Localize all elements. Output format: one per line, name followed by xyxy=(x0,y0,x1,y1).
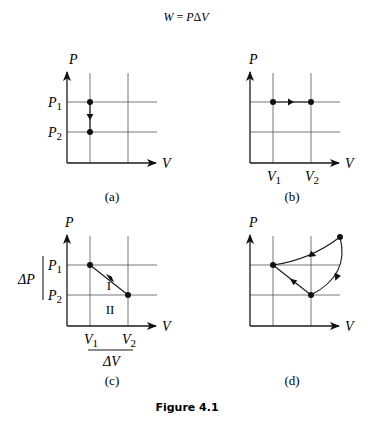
v1-label: V1 xyxy=(267,169,281,186)
equation-equals: = xyxy=(173,10,186,24)
v2-label: V2 xyxy=(122,332,136,349)
p2-label: P2 xyxy=(47,288,62,305)
x-axis-label: V xyxy=(162,156,172,171)
y-axis-label: P xyxy=(248,52,258,67)
caption-b: (b) xyxy=(284,189,299,204)
equation-v: V xyxy=(201,10,210,24)
state-point-2 xyxy=(337,234,343,240)
cycle-path-upper xyxy=(273,237,340,265)
panel-a: P V P1 P2 (a) xyxy=(47,52,172,204)
region-i-label: I xyxy=(107,278,111,293)
state-point-1 xyxy=(270,262,276,268)
p1-label: P1 xyxy=(47,95,62,112)
caption-c: (c) xyxy=(105,373,119,388)
caption-a: (a) xyxy=(105,189,119,204)
state-point-1 xyxy=(87,262,93,268)
equation: W = PΔV xyxy=(163,10,210,24)
x-axis-label: V xyxy=(345,319,355,334)
state-point-2 xyxy=(87,129,93,135)
x-axis-label: V xyxy=(162,319,172,334)
state-point-1 xyxy=(87,99,93,105)
y-axis-label: P xyxy=(68,52,78,67)
y-axis-label: P xyxy=(64,215,74,230)
figure-canvas: W = PΔV P V P1 P2 (a) P V V1 V2 (b) xyxy=(0,0,373,423)
y-axis-label: P xyxy=(248,215,258,230)
state-point-2 xyxy=(125,292,131,298)
panel-b: P V V1 V2 (b) xyxy=(248,52,355,204)
figure-caption: Figure 4.1 xyxy=(155,401,218,414)
v1-label: V1 xyxy=(84,332,98,349)
state-point-1 xyxy=(270,99,276,105)
arrow-right-icon xyxy=(288,99,294,106)
p2-label: P2 xyxy=(47,125,62,142)
state-point-2 xyxy=(308,99,314,105)
panel-c: P V P1 P2 ΔP V1 V2 ΔV I II (c) xyxy=(17,215,172,388)
region-ii-label: II xyxy=(106,302,115,317)
delta-p-label: ΔP xyxy=(17,272,35,287)
arrow-down-icon xyxy=(87,114,94,120)
state-point-3 xyxy=(308,292,314,298)
v2-label: V2 xyxy=(305,169,319,186)
panel-d: P V (d) xyxy=(248,215,355,388)
p1-label: P1 xyxy=(47,258,62,275)
x-axis-label: V xyxy=(345,156,355,171)
delta-v-label: ΔV xyxy=(102,354,121,369)
caption-d: (d) xyxy=(284,373,299,388)
